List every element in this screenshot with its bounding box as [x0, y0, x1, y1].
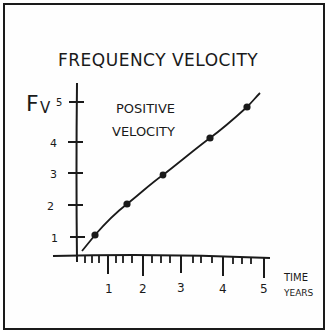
data-point	[123, 200, 130, 207]
svg-text:3: 3	[50, 168, 57, 181]
series-line	[82, 93, 260, 251]
y-tick-labels: 5 4 3 2 1	[47, 97, 62, 245]
svg-text:5: 5	[260, 282, 268, 296]
data-point	[206, 134, 213, 141]
x-axis-label-line-1: TIME	[283, 272, 308, 283]
svg-text:3: 3	[177, 281, 185, 295]
y-axis-label: F	[26, 91, 39, 116]
data-point	[243, 103, 250, 110]
chart-canvas: FREQUENCY VELOCITY F V POSITIVE VELOCITY…	[0, 0, 333, 333]
annotation-line-1: POSITIVE	[116, 101, 175, 116]
svg-text:4: 4	[50, 137, 57, 150]
x-axis-label-line-2: YEARS	[283, 288, 314, 298]
data-point	[160, 172, 167, 179]
annotation-line-2: VELOCITY	[112, 124, 175, 139]
svg-text:1: 1	[105, 282, 113, 296]
svg-text:4: 4	[219, 282, 227, 296]
data-point	[91, 231, 98, 238]
svg-text:1: 1	[51, 232, 58, 245]
svg-text:5: 5	[56, 97, 62, 108]
y-axis-label-subscript: V	[40, 99, 51, 117]
chart-title: FREQUENCY VELOCITY	[58, 50, 258, 70]
svg-text:2: 2	[47, 200, 54, 213]
x-tick-labels: 1 2 3 4 5	[105, 281, 268, 296]
svg-text:2: 2	[139, 282, 147, 296]
